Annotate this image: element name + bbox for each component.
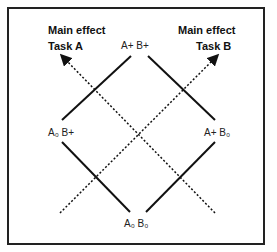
solid-line-top-right xyxy=(148,56,215,120)
main-effect-b-title: Main effect xyxy=(178,24,235,36)
label-top: A+ B+ xyxy=(121,40,149,51)
main-effect-b-task: Task B xyxy=(196,40,231,52)
main-effect-a-title: Main effect xyxy=(48,24,105,36)
diagram-canvas xyxy=(0,0,277,252)
dotted-arrow-task-a xyxy=(63,57,215,213)
label-bottom: A₀ B₀ xyxy=(124,218,148,229)
label-left: A₀ B+ xyxy=(48,127,74,138)
main-effect-a-task: Task A xyxy=(48,40,83,52)
label-right: A+ B₀ xyxy=(204,127,230,138)
